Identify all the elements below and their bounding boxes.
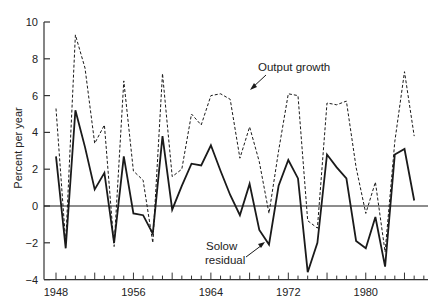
line-chart: −4−20246810 19481956196419721980 Percent… — [0, 0, 441, 308]
x-axis: 19481956196419721980 — [44, 273, 428, 298]
output-growth-annotation: Output growth — [258, 61, 330, 73]
y-tick-label: 4 — [32, 126, 38, 138]
output-growth-line — [56, 35, 414, 252]
solow-annotation-line2: residual — [205, 254, 245, 266]
x-tick-label: 1948 — [44, 286, 68, 298]
y-tick-label: 6 — [32, 90, 38, 102]
x-tick-label: 1980 — [354, 286, 378, 298]
y-tick-label: 0 — [32, 200, 38, 212]
x-tick-label: 1964 — [199, 286, 223, 298]
y-tick-label: 2 — [32, 163, 38, 175]
y-axis-label: Percent per year — [12, 107, 24, 189]
chart: −4−20246810 19481956196419721980 Percent… — [0, 0, 441, 308]
y-tick-label: −2 — [25, 237, 38, 249]
x-tick-label: 1956 — [121, 286, 145, 298]
y-tick-label: −4 — [25, 274, 38, 286]
y-tick-label: 10 — [26, 16, 38, 28]
y-tick-label: 8 — [32, 53, 38, 65]
solow-annotation-line1: Solow — [206, 240, 238, 252]
x-tick-label: 1972 — [276, 286, 300, 298]
solow-arrow — [246, 245, 262, 257]
y-axis: −4−20246810 — [25, 16, 50, 286]
